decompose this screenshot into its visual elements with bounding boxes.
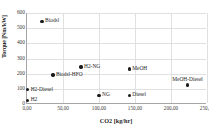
gridline-horizontal (27, 28, 206, 29)
y-tick-label: 400 (17, 41, 25, 46)
y-tick-label: 100 (17, 86, 25, 91)
y-tick-label: 200 (17, 71, 25, 76)
x-tick-label: 0,00 (22, 106, 31, 111)
gridline-horizontal (27, 13, 206, 14)
plot-area: 0100200300400500600 0,0050,00100,00150,0… (26, 13, 206, 104)
data-point-label: Biodsl (45, 19, 59, 24)
gridline-vertical (207, 13, 208, 103)
gridline-vertical (63, 13, 64, 103)
data-point-label: H2-NG (84, 64, 100, 69)
gridline-horizontal (27, 89, 206, 90)
data-point-label: H2 (31, 98, 38, 103)
y-axis-title: Torque [Nm/kW] (1, 15, 7, 58)
data-point-label: Diesel (132, 93, 146, 98)
x-tick-label: 50,00 (57, 106, 69, 111)
x-tick-label: 200,00 (164, 106, 178, 111)
data-point-marker (186, 83, 189, 86)
y-tick-label: 300 (17, 56, 25, 61)
scatter-chart: Torque [Nm/kW] CO2 [kg/hr] 0100200300400… (0, 0, 209, 131)
gridline-horizontal (27, 43, 206, 44)
y-tick-label: 500 (17, 25, 25, 30)
x-tick-label: 100,00 (92, 106, 106, 111)
data-point-marker (51, 73, 54, 76)
x-tick-label: 150,00 (128, 106, 142, 111)
y-tick-label: 600 (17, 10, 25, 15)
data-point-marker (128, 94, 131, 97)
gridline-vertical (171, 13, 172, 103)
data-point-label: MeOH (132, 66, 147, 71)
gridline-vertical (135, 13, 136, 103)
gridline-horizontal (27, 59, 206, 60)
data-point-marker (97, 94, 100, 97)
data-point-marker (26, 99, 29, 102)
data-point-label: NG (102, 93, 110, 98)
data-point-marker (26, 88, 29, 91)
data-point-label: MeOH-Diesel (172, 76, 203, 81)
gridline-vertical (99, 13, 100, 103)
data-point-label: H2-Diesel (31, 87, 53, 92)
x-tick-label: 250,00 (200, 106, 209, 111)
data-point-label: Biodsl-HFO (56, 72, 83, 77)
data-point-marker (128, 67, 131, 70)
x-axis-title: CO2 [kg/hr] (26, 117, 206, 124)
data-point-marker (79, 65, 82, 68)
data-point-marker (40, 20, 43, 23)
